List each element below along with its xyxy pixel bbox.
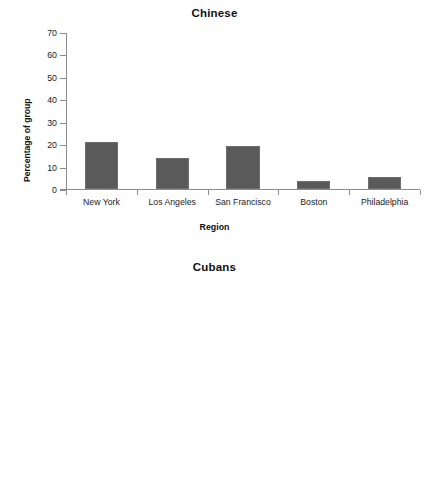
x-tick (137, 190, 138, 195)
bar (226, 146, 259, 189)
y-axis-title: Percentage of group (22, 98, 32, 182)
y-tick-label: 20 (47, 140, 57, 150)
bar (156, 158, 189, 189)
y-tick-label: 30 (47, 118, 57, 128)
figure-two-bar-charts: Chinese Percentage of group 010203040506… (0, 0, 429, 498)
x-category-label: Los Angeles (149, 197, 196, 207)
bar (297, 181, 330, 189)
chart-chinese: Chinese Percentage of group 010203040506… (0, 0, 429, 250)
bar-group (66, 33, 420, 189)
plot-area: 010203040506070 (66, 33, 420, 190)
x-tick (278, 190, 279, 195)
x-tick (208, 190, 209, 195)
x-axis-line (60, 189, 420, 190)
bar (368, 177, 401, 189)
y-tick-label: 70 (47, 28, 57, 38)
y-tick-label: 40 (47, 95, 57, 105)
chart-title: Chinese (0, 7, 429, 19)
y-tick-label: 60 (47, 50, 57, 60)
y-tick-label: 0 (52, 185, 57, 195)
x-category-label: San Francisco (215, 197, 271, 207)
x-tick (349, 190, 350, 195)
x-axis-title: Region (0, 222, 429, 232)
chart-cubans: Cubans Percentage of group 0102030405060… (0, 253, 429, 498)
bar (85, 142, 118, 189)
x-category-label: New York (83, 197, 120, 207)
x-tick (420, 190, 421, 195)
chart-title: Cubans (0, 261, 429, 273)
y-tick-label: 10 (47, 163, 57, 173)
x-category-label: Boston (300, 197, 327, 207)
y-tick-label: 50 (47, 73, 57, 83)
x-category-label: Philadelphia (361, 197, 408, 207)
x-tick (66, 190, 67, 195)
